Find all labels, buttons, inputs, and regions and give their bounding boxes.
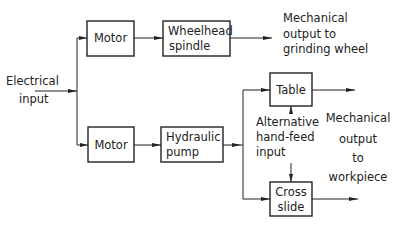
cross-slide-block: Cross slide bbox=[270, 182, 312, 216]
wheelhead-arrowhead bbox=[154, 36, 163, 40]
motor-bottom-label: Motor bbox=[94, 138, 128, 152]
cross-slide-output-arrowhead bbox=[349, 197, 358, 201]
input-arrowhead bbox=[68, 89, 77, 93]
svg-text:input: input bbox=[256, 145, 286, 159]
hand-feed-down-arrowhead bbox=[289, 174, 293, 182]
svg-text:output to: output to bbox=[283, 27, 336, 41]
wheelhead-label-line1: Wheelhead bbox=[168, 24, 233, 38]
motor-bottom-arrowhead bbox=[80, 143, 88, 147]
input-label-line2: input bbox=[19, 92, 49, 106]
svg-text:Mechanical: Mechanical bbox=[283, 11, 348, 25]
table-arrowhead bbox=[261, 88, 270, 92]
svg-text:hand-feed: hand-feed bbox=[256, 130, 315, 144]
svg-text:Alternative: Alternative bbox=[256, 115, 319, 129]
wheel-output-arrowhead bbox=[263, 36, 272, 40]
cross-slide-arrowhead bbox=[261, 197, 270, 201]
cross-slide-label-line1: Cross bbox=[275, 185, 307, 199]
pump-label-line1: Hydraulic bbox=[166, 130, 221, 144]
hand-feed-up-arrowhead bbox=[289, 106, 293, 114]
motor-bottom-block: Motor bbox=[88, 127, 134, 162]
grinding-machine-power-flow-diagram: Electrical input Motor Wheelhead spindle… bbox=[0, 0, 412, 230]
output-wheel-label: Mechanical output to grinding wheel bbox=[283, 11, 368, 56]
pump-label-line2: pump bbox=[166, 145, 199, 159]
pump-arrowhead bbox=[152, 143, 161, 147]
svg-text:workpiece: workpiece bbox=[329, 170, 388, 184]
motor-top-arrowhead bbox=[79, 36, 87, 40]
table-output-arrowhead bbox=[346, 88, 355, 92]
wheelhead-label-line2: spindle bbox=[169, 39, 210, 53]
hydraulic-pump-block: Hydraulic pump bbox=[161, 127, 223, 162]
wheelhead-spindle-block: Wheelhead spindle bbox=[163, 21, 233, 56]
pump-output-arrowhead bbox=[232, 143, 241, 147]
hand-feed-label: Alternative hand-feed input bbox=[256, 115, 319, 159]
diagram-svg: Electrical input Motor Wheelhead spindle… bbox=[0, 0, 412, 230]
motor-top-label: Motor bbox=[94, 31, 128, 45]
table-block: Table bbox=[270, 73, 312, 106]
input-label-line1: Electrical bbox=[6, 74, 59, 88]
cross-slide-label-line2: slide bbox=[278, 200, 305, 214]
table-label: Table bbox=[275, 83, 306, 97]
output-workpiece-label: Mechanical output to workpiece bbox=[326, 111, 391, 184]
electrical-input: Electrical input bbox=[6, 74, 77, 106]
svg-text:grinding wheel: grinding wheel bbox=[283, 42, 368, 56]
svg-text:to: to bbox=[352, 151, 364, 165]
svg-text:Mechanical: Mechanical bbox=[326, 111, 391, 125]
svg-text:output: output bbox=[339, 132, 377, 146]
motor-top-block: Motor bbox=[87, 21, 134, 56]
